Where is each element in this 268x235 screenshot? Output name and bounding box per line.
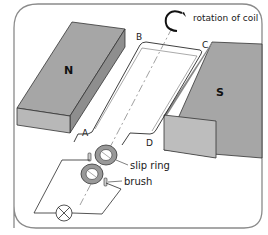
brush-leader — [108, 181, 122, 182]
coil-corner-d: D — [146, 138, 153, 148]
rotation-label: rotation of coil — [193, 13, 258, 23]
coil-corner-c: C — [202, 40, 208, 50]
south-pole-label: S — [216, 86, 224, 99]
slip-rings — [81, 145, 117, 184]
coil-corner-a: A — [82, 128, 89, 138]
lamp-icon — [56, 205, 72, 221]
north-magnet: N — [17, 22, 125, 133]
north-pole-label: N — [64, 64, 73, 77]
coil-corner-b: B — [136, 32, 142, 42]
brush-label: brush — [124, 176, 152, 187]
south-magnet: S — [164, 42, 262, 158]
ac-generator-diagram: N S B C A D rotation of coil — [0, 0, 268, 235]
circuit-wires — [34, 160, 121, 214]
slip-ring-leader — [116, 160, 128, 165]
slip-ring-label: slip ring — [130, 160, 170, 171]
rotation-arrow-icon — [166, 11, 186, 31]
